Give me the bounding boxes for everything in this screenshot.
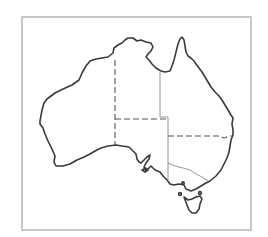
border-nsw-vic bbox=[168, 163, 208, 181]
mainland-coastline bbox=[40, 37, 233, 191]
flinders-island bbox=[199, 192, 202, 195]
border-qld-nsw bbox=[168, 136, 233, 138]
australia-map bbox=[0, 0, 268, 237]
border-nt-qld bbox=[160, 72, 168, 117]
tasmania-coastline bbox=[184, 196, 202, 213]
port-phillip-marker bbox=[182, 182, 184, 184]
king-island bbox=[179, 193, 182, 196]
